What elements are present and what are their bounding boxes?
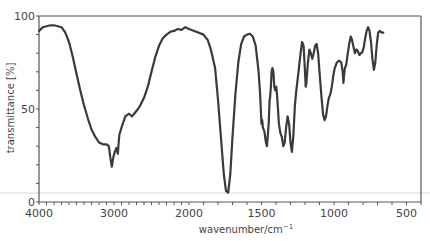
- ir-spectrum-chart: 050100 40003000200015001000500 transmitt…: [0, 0, 430, 241]
- y-axis-ticks: 050100: [14, 10, 39, 209]
- x-axis-ticks: 40003000200015001000500: [25, 202, 421, 220]
- x-tick-label: 2000: [175, 207, 203, 220]
- y-tick-label: 50: [21, 103, 35, 116]
- x-tick-label: 4000: [25, 207, 53, 220]
- x-axis-title: wavenumber/cm−1: [199, 223, 293, 235]
- y-axis-title: transmittance [%]: [5, 63, 16, 154]
- x-tick-label: 1000: [320, 207, 348, 220]
- x-tick-label: 500: [396, 207, 417, 220]
- x-tick-label: 1500: [248, 207, 276, 220]
- y-tick-label: 100: [14, 10, 35, 23]
- spectrum-line: [39, 25, 383, 192]
- x-tick-label: 3000: [100, 207, 128, 220]
